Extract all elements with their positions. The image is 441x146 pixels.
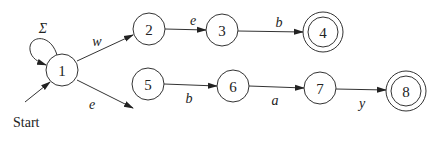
svg-text:4: 4 [319, 25, 327, 41]
state-2: 2 [133, 13, 165, 45]
svg-text:1: 1 [58, 63, 66, 79]
svg-text:7: 7 [316, 81, 324, 97]
automaton-diagram: Start Σ w e b e b a y 1 [0, 0, 441, 146]
state-3: 3 [206, 14, 238, 46]
state-1: 1 [46, 54, 78, 86]
state-5: 5 [132, 68, 164, 100]
transition-3-4: b [238, 15, 303, 33]
transition-label-e2: e [89, 97, 95, 112]
svg-text:3: 3 [218, 23, 226, 39]
svg-text:8: 8 [402, 84, 410, 100]
state-6: 6 [217, 70, 249, 102]
transition-label-sigma: Σ [38, 21, 48, 36]
transition-5-6: b [164, 84, 217, 106]
transition-label-b2: b [186, 91, 193, 106]
state-4-accepting: 4 [303, 12, 343, 52]
state-8-accepting: 8 [386, 71, 426, 111]
transition-1-5: e [77, 80, 133, 112]
transition-label-e1: e [190, 13, 196, 28]
transition-7-8: y [336, 89, 386, 111]
start-label: Start [13, 115, 40, 130]
svg-text:5: 5 [144, 77, 152, 93]
transition-6-7: a [249, 86, 304, 108]
transition-label-w: w [92, 34, 102, 49]
transition-2-3: e [165, 13, 206, 31]
svg-text:6: 6 [229, 79, 237, 95]
transition-label-b1: b [276, 15, 283, 30]
state-7: 7 [304, 72, 336, 104]
transition-1-2: w [77, 34, 133, 62]
start-arrow [25, 82, 50, 102]
transition-label-y: y [357, 96, 366, 111]
transition-label-a: a [272, 93, 279, 108]
svg-text:2: 2 [145, 22, 153, 38]
